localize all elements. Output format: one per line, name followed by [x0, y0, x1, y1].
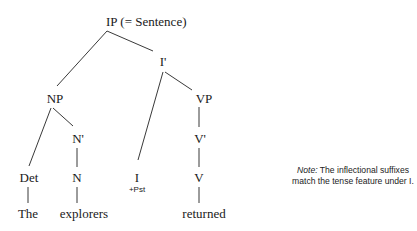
- edge-np-det: [29, 108, 51, 166]
- note-label: Note:: [297, 165, 318, 175]
- word-the: The: [18, 206, 38, 221]
- edge-ip-np: [57, 31, 107, 86]
- node-ip: IP (= Sentence): [106, 14, 187, 29]
- node-det: Det: [20, 170, 39, 185]
- node-i-feature: +Pst: [129, 185, 146, 194]
- node-v: V: [194, 170, 204, 185]
- node-nbar: N': [72, 131, 84, 146]
- word-explorers: explorers: [60, 206, 108, 221]
- edge-np-nbar: [53, 108, 73, 126]
- note: Note: The inflectional suffixes match th…: [288, 165, 417, 187]
- node-n: N: [72, 170, 82, 185]
- node-i: I: [135, 170, 139, 185]
- node-vbar: V': [194, 131, 206, 146]
- edge-ibar-i: [138, 72, 163, 160]
- node-ibar: I': [160, 54, 167, 69]
- node-np: NP: [47, 91, 64, 106]
- node-vp: VP: [196, 91, 213, 106]
- edge-ip-ibar: [107, 31, 153, 51]
- syntax-tree: IP (= Sentence) I' NP VP N' V' Det N I +…: [0, 0, 417, 231]
- edge-ibar-vp: [165, 72, 192, 90]
- word-returned: returned: [182, 206, 226, 221]
